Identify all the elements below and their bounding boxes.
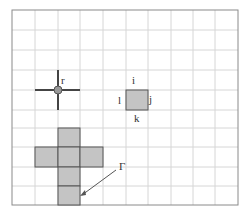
label-r: r <box>61 74 65 86</box>
label-k: k <box>134 112 140 124</box>
grid-diagram: r i j k l Γ <box>0 0 248 217</box>
label-i: i <box>132 74 135 86</box>
label-gamma: Γ <box>119 160 125 172</box>
cross-net <box>35 128 103 205</box>
grid-border <box>12 10 238 205</box>
cross-marker-r <box>35 70 80 110</box>
label-l: l <box>118 94 121 106</box>
grid-lines <box>12 10 238 205</box>
label-j: j <box>148 93 152 105</box>
square-ijkl <box>126 90 148 110</box>
gamma-arrow <box>80 170 116 196</box>
